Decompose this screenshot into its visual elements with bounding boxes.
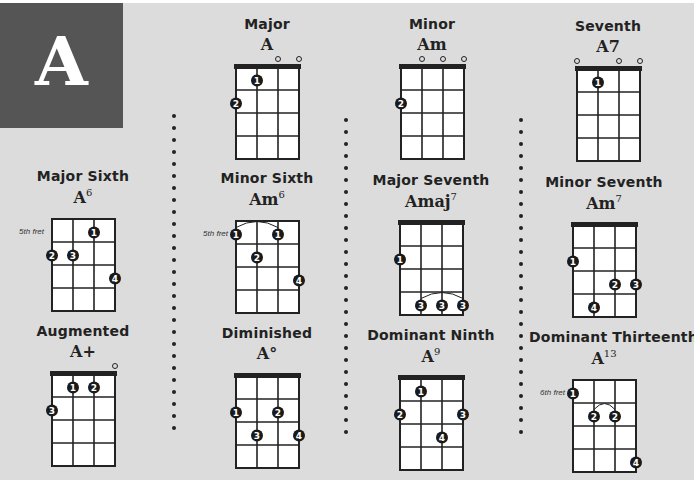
- chord-type-label: Major Seventh: [356, 172, 506, 188]
- finger-number: 1: [69, 383, 75, 393]
- separator-dot: [172, 390, 176, 394]
- finger-number: 4: [295, 431, 301, 441]
- separator-dot: [519, 178, 523, 182]
- separator-dot: [519, 226, 523, 230]
- chord-type-label: Minor Sixth: [192, 170, 342, 186]
- chord-root: A: [74, 188, 86, 207]
- separator-dot: [172, 366, 176, 370]
- separator-dot: [172, 210, 176, 214]
- chord-major-sixth: Major SixthA65th fret1234: [8, 168, 158, 319]
- separator-dot: [172, 318, 176, 322]
- chord-root: A+: [70, 342, 96, 361]
- separator-dot: [344, 178, 348, 182]
- separator-dot: [519, 286, 523, 290]
- chord-name: Amaj7: [356, 191, 506, 211]
- separator-dot: [172, 306, 176, 310]
- chord-suffix: 13: [604, 348, 617, 359]
- separator-dot: [172, 222, 176, 226]
- separator-dot: [344, 226, 348, 230]
- chord-major: MajorA12: [192, 16, 342, 167]
- chord-root: A: [591, 349, 603, 368]
- chord-name: A°: [192, 344, 342, 364]
- open-string-icon: [112, 364, 117, 369]
- chord-diagram: 1333: [370, 211, 493, 323]
- separator-dot: [519, 118, 523, 122]
- separator-dot: [344, 142, 348, 146]
- chord-suffix: 7: [615, 193, 621, 204]
- chord-name: A9: [356, 346, 506, 366]
- chord-diagram: 1234: [543, 213, 666, 325]
- separator-dot: [344, 190, 348, 194]
- separator-dot: [172, 162, 176, 166]
- separator-dot: [172, 126, 176, 130]
- separator-dot: [344, 406, 348, 410]
- finger-number: 4: [111, 274, 117, 284]
- separator-dot: [172, 186, 176, 190]
- finger-number: 3: [253, 431, 259, 441]
- finger-number: 1: [274, 230, 280, 240]
- chord-type-label: Diminished: [192, 325, 342, 341]
- separator-dot: [172, 198, 176, 202]
- finger-number: 2: [611, 412, 617, 422]
- chord-type-label: Dominant Ninth: [356, 327, 506, 343]
- chord-type-label: Dominant Thirteenth: [529, 329, 679, 345]
- separator-dot: [344, 358, 348, 362]
- chord-type-label: Seventh: [533, 18, 683, 34]
- separator-dot: [344, 322, 348, 326]
- chord-suffix: 6: [86, 187, 92, 198]
- separator-dot: [519, 406, 523, 410]
- separator-dot: [172, 150, 176, 154]
- chord-root: Am: [586, 194, 615, 213]
- separator-dot: [519, 430, 523, 434]
- finger-number: 2: [274, 408, 280, 418]
- chord-root: A°: [257, 344, 277, 363]
- key-letter-box: A: [0, 3, 123, 128]
- separator-dot: [344, 250, 348, 254]
- open-string-icon: [275, 57, 280, 62]
- separator-dot: [519, 130, 523, 134]
- finger-number: 3: [69, 251, 75, 261]
- fret-position-label: 5th fret: [203, 229, 229, 238]
- open-string-icon: [461, 57, 466, 62]
- chord-name: Am7: [529, 193, 679, 213]
- separator-dot: [344, 262, 348, 266]
- nut-bar: [398, 220, 465, 225]
- chord-minor: MinorAm2: [357, 16, 507, 167]
- chord-type-label: Minor Seventh: [529, 174, 679, 190]
- finger-number: 3: [48, 406, 54, 416]
- separator-dot: [344, 214, 348, 218]
- finger-number: 1: [594, 78, 600, 88]
- separator-dot: [519, 298, 523, 302]
- finger-number: 3: [417, 301, 423, 311]
- separator-dot: [344, 166, 348, 170]
- finger-number: 3: [438, 301, 444, 311]
- chord-diagram: 1234: [206, 364, 329, 476]
- nut-bar: [50, 371, 117, 376]
- separator-dot: [519, 394, 523, 398]
- finger-number: 2: [90, 383, 96, 393]
- finger-number: 2: [396, 410, 402, 420]
- chord-diagram: 123: [22, 362, 145, 474]
- nut-bar: [571, 222, 638, 227]
- finger-number: 4: [590, 303, 596, 313]
- separator-dot: [344, 394, 348, 398]
- dotted-separator: [344, 118, 348, 442]
- separator-dot: [172, 342, 176, 346]
- separator-dot: [519, 370, 523, 374]
- key-letter: A: [0, 21, 123, 101]
- separator-dot: [519, 418, 523, 422]
- separator-dot: [344, 202, 348, 206]
- separator-dot: [172, 282, 176, 286]
- chord-seventh: SeventhA71: [533, 18, 683, 169]
- open-string-icon: [637, 59, 642, 64]
- separator-dot: [344, 310, 348, 314]
- separator-dot: [172, 258, 176, 262]
- finger-number: 1: [396, 255, 402, 265]
- chord-diagram: 2: [371, 55, 494, 167]
- chord-root: A: [261, 35, 273, 54]
- finger-number: 3: [632, 280, 638, 290]
- open-string-icon: [440, 57, 445, 62]
- separator-dot: [519, 214, 523, 218]
- separator-dot: [519, 334, 523, 338]
- separator-dot: [172, 294, 176, 298]
